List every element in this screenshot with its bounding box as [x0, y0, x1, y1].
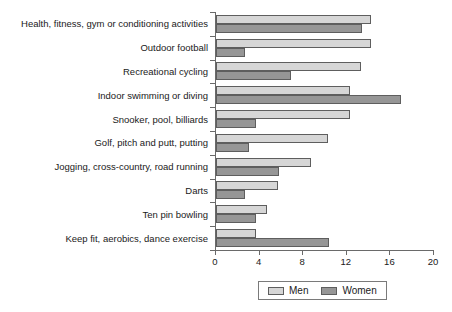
bar-women-2	[216, 48, 245, 57]
x-axis-tick-label: 12	[341, 256, 352, 267]
bar-women-4	[216, 95, 401, 104]
bar-women-9	[216, 214, 256, 223]
y-axis-tick	[210, 12, 215, 13]
y-axis-tick	[210, 202, 215, 203]
bar-group-8	[216, 179, 434, 203]
bar-group-7	[216, 155, 434, 179]
category-label-text: Snooker, pool, billiards	[112, 114, 208, 125]
legend-item-men: Men	[268, 285, 308, 296]
bar-men-1	[216, 15, 371, 24]
bar-men-3	[216, 62, 361, 71]
category-label-9: Ten pin bowling	[0, 202, 212, 226]
category-label-text: Golf, pitch and putt, putting	[94, 137, 208, 148]
bar-women-3	[216, 71, 291, 80]
x-axis-tick	[433, 250, 434, 255]
x-axis-tick	[259, 250, 260, 255]
bar-group-3	[216, 60, 434, 84]
bar-group-10	[216, 226, 434, 250]
bar-group-6	[216, 131, 434, 155]
category-label-2: Outdoor football	[0, 36, 212, 60]
legend-swatch-men	[268, 287, 284, 295]
category-label-text: Recreational cycling	[123, 66, 208, 77]
bar-men-7	[216, 158, 311, 167]
category-label-text: Darts	[185, 185, 208, 196]
bar-women-8	[216, 190, 245, 199]
category-axis: Health, fitness, gym or conditioning act…	[0, 12, 212, 250]
y-axis-tick	[210, 83, 215, 84]
chart-legend: MenWomen	[258, 281, 387, 300]
x-axis-tick-label: 8	[300, 256, 305, 267]
category-label-3: Recreational cycling	[0, 60, 212, 84]
x-axis-tick	[302, 250, 303, 255]
category-label-8: Darts	[0, 179, 212, 203]
legend-label: Women	[342, 285, 376, 296]
bar-women-5	[216, 119, 256, 128]
y-axis-tick	[210, 250, 215, 251]
bar-men-4	[216, 86, 350, 95]
y-axis-tick	[210, 107, 215, 108]
legend-swatch-women	[321, 287, 337, 295]
category-label-text: Keep fit, aerobics, dance exercise	[65, 233, 208, 244]
bar-group-2	[216, 36, 434, 60]
y-axis-tick	[210, 179, 215, 180]
bar-group-1	[216, 12, 434, 36]
category-label-1: Health, fitness, gym or conditioning act…	[0, 12, 212, 36]
y-axis-tick	[210, 131, 215, 132]
legend-label: Men	[289, 285, 308, 296]
category-label-7: Jogging, cross-country, road running	[0, 155, 212, 179]
bar-men-6	[216, 134, 328, 143]
plot-area	[215, 12, 434, 250]
bar-group-9	[216, 202, 434, 226]
x-axis-tick-label: 20	[428, 256, 439, 267]
bar-women-1	[216, 24, 362, 33]
bar-men-10	[216, 229, 256, 238]
x-axis-tick	[346, 250, 347, 255]
bar-women-6	[216, 143, 249, 152]
bar-men-8	[216, 181, 278, 190]
bar-men-2	[216, 39, 371, 48]
category-label-4: Indoor swimming or diving	[0, 83, 212, 107]
y-axis-tick	[210, 60, 215, 61]
bar-group-4	[216, 83, 434, 107]
x-axis-tick-label: 4	[256, 256, 261, 267]
category-label-6: Golf, pitch and putt, putting	[0, 131, 212, 155]
bar-group-5	[216, 107, 434, 131]
category-label-10: Keep fit, aerobics, dance exercise	[0, 226, 212, 250]
bar-men-9	[216, 205, 267, 214]
y-axis-tick	[210, 226, 215, 227]
y-axis-tick	[210, 155, 215, 156]
category-label-text: Ten pin bowling	[143, 209, 209, 220]
category-label-text: Indoor swimming or diving	[98, 90, 208, 101]
y-axis-tick	[210, 36, 215, 37]
category-label-text: Health, fitness, gym or conditioning act…	[21, 18, 208, 29]
x-axis-tick	[215, 250, 216, 255]
category-label-5: Snooker, pool, billiards	[0, 107, 212, 131]
category-label-text: Jogging, cross-country, road running	[55, 161, 209, 172]
x-axis-tick-label: 16	[384, 256, 395, 267]
bar-women-7	[216, 167, 279, 176]
bar-chart: Health, fitness, gym or conditioning act…	[0, 0, 452, 312]
bar-men-5	[216, 110, 350, 119]
bar-women-10	[216, 238, 329, 247]
x-axis-tick-label: 0	[212, 256, 217, 267]
category-label-text: Outdoor football	[140, 42, 208, 53]
x-axis-tick	[389, 250, 390, 255]
legend-item-women: Women	[321, 285, 376, 296]
x-axis-line	[215, 250, 434, 251]
